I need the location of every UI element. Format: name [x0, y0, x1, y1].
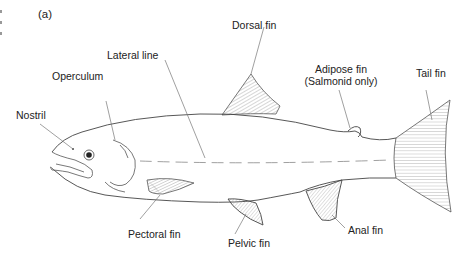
- label-adipose-fin: Adipose fin (Salmonid only): [303, 63, 379, 87]
- label-adipose-fin-note: (Salmonid only): [303, 75, 379, 87]
- anal-fin: [306, 180, 342, 221]
- body-outline: [52, 114, 396, 202]
- tail-fin: [394, 100, 451, 212]
- label-pectoral-fin: Pectoral fin: [128, 228, 181, 240]
- label-operculum: Operculum: [52, 70, 103, 82]
- label-dorsal-fin: Dorsal fin: [232, 19, 276, 31]
- fish-diagram: [0, 0, 467, 264]
- label-lateral-line: Lateral line: [107, 49, 158, 61]
- pelvic-fin: [228, 199, 263, 225]
- lateral-line: [140, 160, 390, 163]
- dorsal-fin: [222, 74, 280, 115]
- head: [50, 140, 135, 192]
- panel-label: (a): [38, 8, 52, 20]
- label-anal-fin: Anal fin: [348, 224, 383, 236]
- label-tail-fin: Tail fin: [416, 67, 446, 79]
- label-adipose-fin-name: Adipose fin: [303, 63, 379, 75]
- pectoral-fin: [147, 179, 194, 194]
- label-pelvic-fin: Pelvic fin: [228, 237, 270, 249]
- label-nostril: Nostril: [16, 109, 46, 121]
